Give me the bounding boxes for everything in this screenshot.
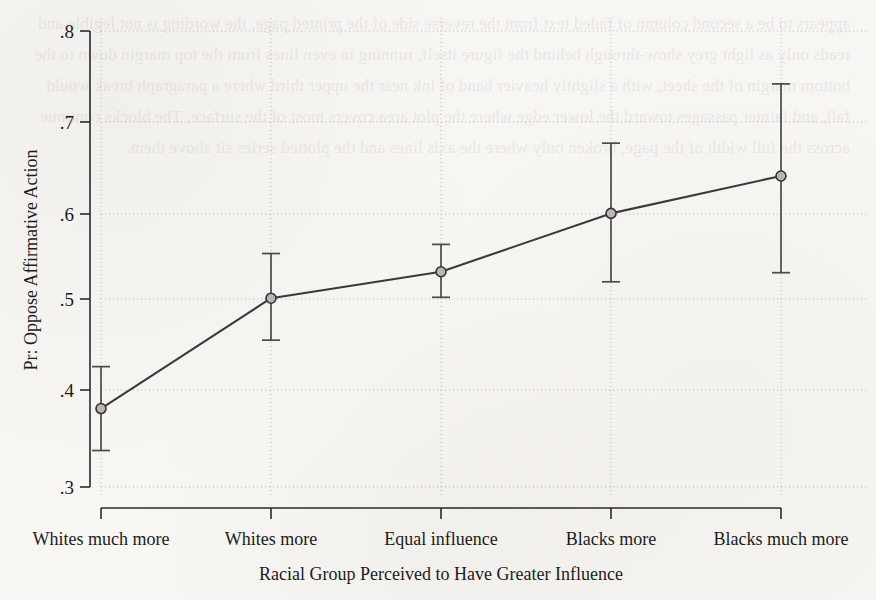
y-axis-title: Pr: Oppose Affirmative Action	[21, 149, 41, 370]
x-axis: Whites much more Whites more Equal influ…	[33, 508, 849, 549]
y-tick-label-6: .6	[60, 204, 74, 225]
data-point-marker	[266, 293, 276, 303]
figure-page: appears to be a second column of faded t…	[0, 0, 876, 600]
y-gridlines	[101, 31, 866, 487]
data-point-marker	[776, 171, 786, 181]
data-point-marker	[96, 404, 106, 414]
data-point-marker	[606, 208, 616, 218]
y-tick-label-4: .4	[60, 380, 75, 401]
y-tick-label-3: .3	[60, 477, 74, 498]
y-tick-label-7: .7	[60, 112, 74, 133]
y-tick-label-5: .5	[60, 289, 74, 310]
x-tick-label-0: Whites much more	[33, 529, 170, 549]
x-tick-label-3: Blacks more	[566, 529, 656, 549]
y-axis: .8 .7 .6 .5 .4 .3	[60, 21, 90, 498]
chart-canvas: .8 .7 .6 .5 .4 .3 Whites much more White…	[0, 0, 876, 600]
data-point-marker	[436, 267, 446, 277]
x-tick-label-4: Blacks much more	[714, 529, 849, 549]
x-axis-title: Racial Group Perceived to Have Greater I…	[259, 564, 623, 584]
x-tick-label-1: Whites more	[225, 529, 317, 549]
x-tick-label-2: Equal influence	[384, 529, 497, 549]
y-tick-label-8: .8	[60, 21, 74, 42]
